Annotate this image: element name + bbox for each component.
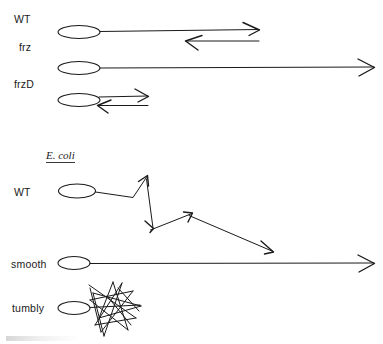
section-heading-ecoli: E. coli — [46, 149, 75, 163]
arrowhead-wt-myxo-forward — [243, 23, 260, 36]
arrowhead-wt-ecoli-run3 — [184, 212, 193, 222]
row-label-tumbly: tumbly — [12, 302, 44, 314]
cell-body-wt-myxo — [58, 26, 100, 39]
cell-body-smooth — [58, 257, 90, 270]
track-wt-ecoli-run2 — [147, 179, 154, 228]
track-frz-forward — [100, 67, 374, 68]
motility-diagram: .ink { stroke: #1a1a1a; fill: none; stro… — [0, 0, 383, 344]
cell-body-frzd — [58, 94, 100, 107]
track-wt-ecoli-run3 — [151, 214, 193, 231]
row-label-wt-myxo: WT — [14, 13, 31, 25]
page-edge-artifact — [6, 336, 82, 341]
track-wt-ecoli-run4 — [189, 216, 273, 252]
cell-body-wt-ecoli — [59, 184, 96, 198]
track-smooth-run — [90, 263, 374, 264]
track-frzd-forward — [99, 96, 148, 97]
diagram-canvas: .ink { stroke: #1a1a1a; fill: none; stro… — [0, 0, 383, 344]
track-tumbly-scribble — [89, 282, 141, 336]
row-label-wt-ecoli: WT — [14, 186, 31, 198]
arrowhead-frzd-forward — [135, 89, 149, 102]
row-label-frz: frz — [19, 41, 31, 53]
cell-body-frz — [58, 62, 100, 75]
row-label-smooth: smooth — [11, 258, 47, 270]
arrowhead-wt-myxo-reverse — [186, 36, 203, 51]
track-wt-ecoli-run1 — [96, 177, 148, 198]
track-wt-myxo-forward — [100, 30, 259, 32]
cell-body-tumbly — [58, 302, 90, 315]
row-label-frzd: frzD — [14, 78, 34, 90]
